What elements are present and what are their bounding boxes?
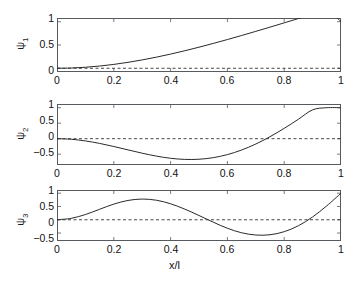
mode-shape-figure: ψ1 1 0.5 0 0 0.2 0.4 0.6 0.8 1 ψ2 1 0.5 … — [0, 0, 360, 285]
curve-layer — [0, 0, 360, 285]
curve-psi_1 — [57, 10, 341, 69]
curve-psi_3 — [57, 193, 341, 235]
curve-psi_2 — [57, 108, 341, 160]
